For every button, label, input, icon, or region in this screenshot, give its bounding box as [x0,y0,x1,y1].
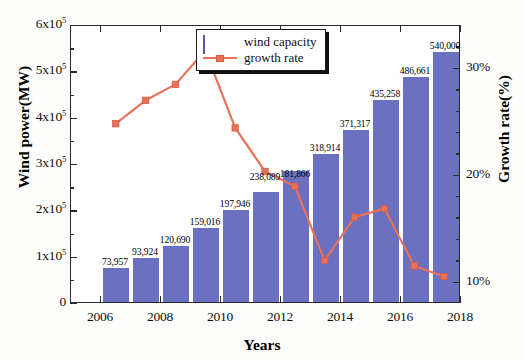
growth-rate-marker-2016 [411,263,417,269]
y-axis-right-tick-label: 10% [466,273,490,289]
axis-tick [70,95,74,96]
y-axis-left-tick-label: 6x105 [4,16,66,32]
axis-tick [160,25,161,29]
y-axis-left-tick-label: 4x105 [4,109,66,125]
axis-tick [456,132,460,133]
axis-tick [340,299,341,303]
legend-line-marker-icon [203,52,237,65]
axis-tick [460,296,461,303]
y-axis-left-tick-label: 2x105 [4,201,66,217]
axis-tick [220,299,221,303]
x-axis-tick-label: 2012 [256,309,304,325]
growth-rate-marker-2012 [292,183,298,189]
axis-tick [70,164,77,165]
axis-tick [70,303,77,304]
growth-rate-marker-2013 [322,257,328,263]
axis-tick [70,71,77,72]
growth-rate-marker-2007 [142,97,148,103]
axis-tick [70,25,77,26]
y-axis-left-title: Wind power(MW) [15,27,33,227]
bar-value-label-2009: 159,016 [190,216,220,227]
growth-rate-marker-2015 [381,205,387,211]
axis-tick [70,141,74,142]
axis-tick [70,48,74,49]
x-axis-title: Years [0,336,524,354]
axis-tick [456,217,460,218]
axis-tick [453,175,460,176]
x-axis-tick-label: 2018 [436,309,484,325]
y-axis-left-tick-label: 1x105 [4,248,66,264]
axis-tick [100,299,101,303]
x-axis-tick-label: 2016 [376,309,424,325]
axis-tick [70,234,74,235]
axis-tick [456,89,460,90]
bar-value-label-2017: 540,000 [430,40,460,51]
growth-rate-marker-2017 [441,273,447,279]
bar-value-label-2007: 93,924 [132,246,158,257]
x-axis-tick-label: 2008 [136,309,184,325]
axis-tick [340,25,341,29]
bar-value-label-2010: 197,946 [220,198,250,209]
x-axis-tick-label: 2014 [316,309,364,325]
axis-tick [453,68,460,69]
axis-tick [453,282,460,283]
axis-tick [160,299,161,303]
legend-label-growth-rate: growth rate [244,50,304,66]
axis-tick [70,280,74,281]
growth-rate-marker-2010 [232,125,238,131]
bar-value-label-2015: 435,258 [370,88,400,99]
y-axis-left-tick-label: 0 [4,294,66,310]
axis-tick [100,25,101,29]
axis-tick [460,25,461,32]
growth-rate-marker-2008 [172,81,178,87]
axis-tick [70,187,74,188]
axis-tick [456,239,460,240]
chart-legend: wind capacity growth rate [196,29,326,71]
legend-label-wind-capacity: wind capacity [244,34,317,50]
bar-value-label-2008: 120,690 [160,234,190,245]
axis-tick [456,153,460,154]
bar-value-label-2013: 318,914 [310,142,340,153]
axis-tick [456,196,460,197]
axis-tick [280,299,281,303]
legend-bar-swatch-icon [203,36,237,49]
y-axis-right-tick-label: 30% [466,59,490,75]
axis-tick [456,260,460,261]
bar-value-label-2016: 486,661 [400,65,430,76]
bar-value-label-2014: 371,317 [340,118,370,129]
bar-value-label-2006: 73,957 [102,256,128,267]
legend-item-growth-rate: growth rate [203,50,317,66]
growth-rate-marker-2014 [351,214,357,220]
axis-tick [70,257,77,258]
y-axis-left-tick-label: 5x105 [4,62,66,78]
axis-tick [70,118,77,119]
bar-value-label-2012: 181,866 [280,168,310,179]
axis-tick [400,299,401,303]
y-axis-right-tick-label: 20% [466,166,490,182]
axis-tick [400,25,401,29]
x-axis-tick-label: 2006 [76,309,124,325]
chart-figure: 01x1052x1053x1054x1055x1056x10510%20%30%… [0,0,524,360]
growth-rate-marker-2006 [113,120,119,126]
x-axis-tick-label: 2010 [196,309,244,325]
y-axis-left-tick-label: 3x105 [4,155,66,171]
bar-value-label-2011: 238,089 [250,171,280,182]
axis-tick [70,210,77,211]
y-axis-right-title: Growth rate(%) [495,29,513,229]
legend-item-wind-capacity: wind capacity [203,34,317,50]
axis-tick [456,111,460,112]
